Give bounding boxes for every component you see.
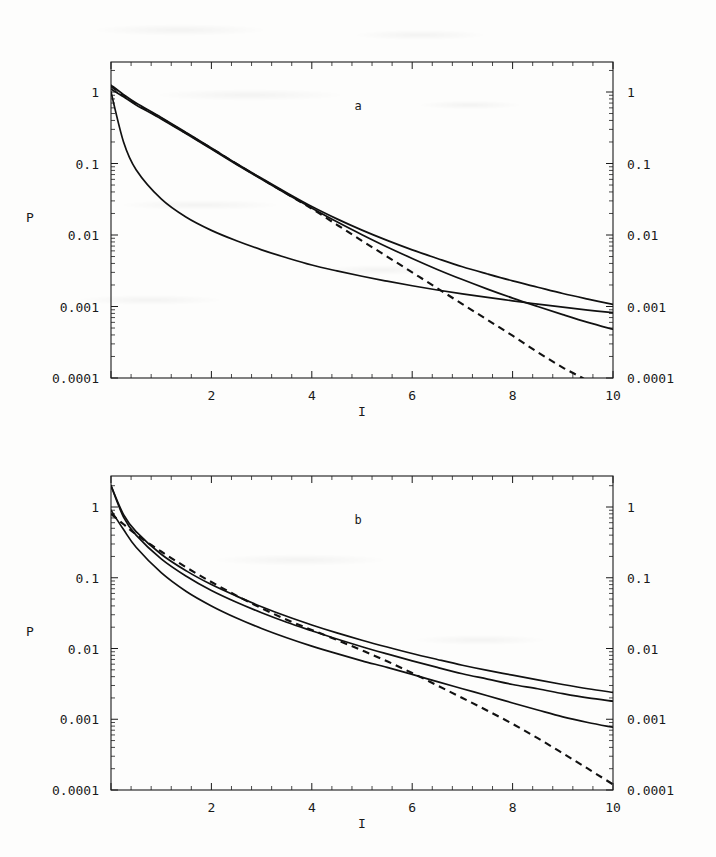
y-tick-label: 0.1 bbox=[76, 571, 99, 586]
panel-b-svg: 10.10.010.0010.0001 10.10.010.0010.0001 … bbox=[0, 414, 716, 857]
panel-b-right-tick-labels: 10.10.010.0010.0001 bbox=[627, 500, 674, 798]
panel-a-letter-label: a bbox=[354, 99, 361, 113]
data-curve-curve-2-middle bbox=[111, 89, 613, 329]
panel-b-left-tick-labels: 10.10.010.0010.0001 bbox=[52, 500, 99, 798]
data-curve-curve-4-dashed-asymptote bbox=[111, 514, 613, 785]
y-tick-label-right: 0.001 bbox=[627, 300, 666, 315]
data-curve-curve-2-middle bbox=[111, 486, 613, 701]
y-tick-label: 0.0001 bbox=[52, 371, 99, 386]
data-curve-curve-3-lower bbox=[111, 92, 613, 313]
y-tick-label-right: 1 bbox=[627, 85, 635, 100]
x-tick-label: 4 bbox=[308, 800, 316, 815]
panel-b-right-axis-ticks bbox=[606, 486, 613, 790]
x-tick-label: 2 bbox=[207, 800, 215, 815]
x-tick-label: 10 bbox=[605, 388, 621, 403]
panel-a-right-tick-labels: 10.10.010.0010.0001 bbox=[627, 85, 674, 386]
panel-a-plot-frame bbox=[111, 62, 613, 378]
y-tick-label-right: 0.0001 bbox=[627, 783, 674, 798]
panel-b-letter-label: b bbox=[354, 513, 361, 527]
panel-a-left-tick-labels: 10.10.010.0010.0001 bbox=[52, 85, 99, 386]
y-tick-label-right: 0.01 bbox=[627, 228, 658, 243]
y-tick-label: 0.01 bbox=[68, 642, 99, 657]
figure-panel-b: 10.10.010.0010.0001 10.10.010.0010.0001 … bbox=[0, 414, 716, 857]
panel-a-bottom-axis-ticks bbox=[111, 371, 613, 378]
panel-b-x-tick-labels: 246810 bbox=[207, 800, 620, 815]
panel-a-top-axis-ticks bbox=[111, 62, 613, 69]
panel-b-y-axis-title: P bbox=[26, 624, 34, 639]
y-tick-label: 0.01 bbox=[68, 228, 99, 243]
panel-b-x-axis-title: I bbox=[358, 816, 366, 831]
y-tick-label-right: 1 bbox=[627, 500, 635, 515]
y-tick-label-right: 0.1 bbox=[627, 157, 650, 172]
y-tick-label: 0.1 bbox=[76, 157, 99, 172]
y-tick-label: 1 bbox=[91, 500, 99, 515]
data-curve-curve-4-dashed-asymptote bbox=[111, 86, 613, 399]
y-tick-label: 0.001 bbox=[60, 300, 99, 315]
panel-a-curves bbox=[111, 85, 613, 399]
x-tick-label: 6 bbox=[408, 800, 416, 815]
x-tick-label: 8 bbox=[509, 388, 517, 403]
y-tick-label: 1 bbox=[91, 85, 99, 100]
y-tick-label: 0.001 bbox=[60, 712, 99, 727]
x-tick-label: 8 bbox=[509, 800, 517, 815]
y-tick-label-right: 0.01 bbox=[627, 642, 658, 657]
panel-b-left-axis-ticks bbox=[111, 486, 118, 790]
figure-panel-a: 10.10.010.0010.0001 10.10.010.0010.0001 … bbox=[0, 0, 716, 430]
x-tick-label: 2 bbox=[207, 388, 215, 403]
panel-a-y-axis-title: P bbox=[26, 210, 34, 225]
x-tick-label: 6 bbox=[408, 388, 416, 403]
panel-a-right-axis-ticks bbox=[606, 70, 613, 378]
y-tick-label-right: 0.0001 bbox=[627, 371, 674, 386]
panel-b-top-axis-ticks bbox=[111, 476, 613, 483]
panel-b-plot-frame bbox=[111, 476, 613, 790]
panel-b-bottom-axis-ticks bbox=[111, 783, 613, 790]
y-tick-label-right: 0.001 bbox=[627, 712, 666, 727]
panel-a-x-tick-labels: 246810 bbox=[207, 388, 620, 403]
panel-b-curves bbox=[111, 486, 613, 785]
data-curve-curve-1-upper bbox=[111, 85, 613, 304]
y-tick-label-right: 0.1 bbox=[627, 571, 650, 586]
data-curve-curve-3-lower bbox=[111, 510, 613, 727]
panel-a-svg: 10.10.010.0010.0001 10.10.010.0010.0001 … bbox=[0, 0, 716, 430]
x-tick-label: 4 bbox=[308, 388, 316, 403]
y-tick-label: 0.0001 bbox=[52, 783, 99, 798]
x-tick-label: 10 bbox=[605, 800, 621, 815]
